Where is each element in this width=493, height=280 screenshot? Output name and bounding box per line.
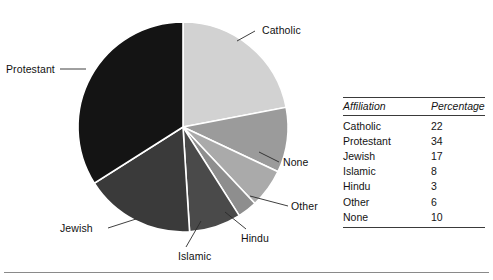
column-header-percentage: Percentage — [431, 98, 485, 116]
table-row: Catholic22 — [343, 115, 485, 133]
cell-percentage: 34 — [431, 133, 485, 148]
cell-affiliation: Hindu — [343, 179, 431, 194]
pie-label-hindu: Hindu — [241, 232, 269, 244]
cell-percentage: 8 — [431, 164, 485, 179]
pie-chart-area: Catholic Protestant None Other Hindu Isl… — [0, 0, 330, 250]
leader-line-catholic — [237, 31, 255, 41]
leader-line-jewish — [108, 219, 136, 228]
table-row: Protestant34 — [343, 133, 485, 148]
pie-label-jewish: Jewish — [60, 222, 93, 234]
table-row: Islamic8 — [343, 164, 485, 179]
pie-label-islamic: Islamic — [178, 250, 211, 262]
cell-affiliation: Jewish — [343, 148, 431, 163]
table-header: Affiliation Percentage — [343, 98, 485, 116]
cell-affiliation: Islamic — [343, 164, 431, 179]
pie-label-other: Other — [291, 200, 318, 212]
table-row: Other6 — [343, 194, 485, 209]
pie-chart-svg — [0, 0, 330, 250]
column-header-affiliation: Affiliation — [343, 98, 431, 116]
cell-affiliation: None — [343, 209, 431, 227]
table-body: Catholic22Protestant34Jewish17Islamic8Hi… — [343, 115, 485, 227]
table-row: None10 — [343, 209, 485, 227]
table-row: Jewish17 — [343, 148, 485, 163]
cell-affiliation: Catholic — [343, 115, 431, 133]
cell-percentage: 6 — [431, 194, 485, 209]
pie-chart-figure: Catholic Protestant None Other Hindu Isl… — [0, 0, 493, 280]
pie-label-none: None — [283, 156, 309, 168]
cell-percentage: 3 — [431, 179, 485, 194]
pie-slices-group — [78, 22, 288, 232]
table-row: Hindu3 — [343, 179, 485, 194]
cell-percentage: 17 — [431, 148, 485, 163]
pie-label-catholic: Catholic — [262, 24, 301, 36]
cell-affiliation: Protestant — [343, 133, 431, 148]
affiliation-percentage-table: Affiliation Percentage Catholic22Protest… — [343, 97, 485, 228]
pie-label-protestant: Protestant — [6, 63, 55, 75]
cell-affiliation: Other — [343, 194, 431, 209]
cell-percentage: 10 — [431, 209, 485, 227]
cell-percentage: 22 — [431, 115, 485, 133]
footer-divider — [4, 272, 489, 273]
table-header-row: Affiliation Percentage — [343, 98, 485, 116]
